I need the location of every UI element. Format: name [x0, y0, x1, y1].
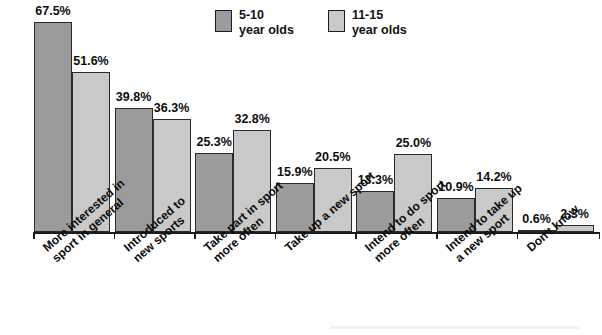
bar-value-label: 67.5%	[35, 4, 70, 18]
plot-area: 67.5%51.6%39.8%36.3%25.3%32.8%15.9%20.5%…	[0, 0, 602, 335]
axis-tick	[114, 232, 116, 239]
bar-value-label: 51.6%	[73, 54, 108, 68]
bar-value-label: 25.3%	[196, 135, 231, 149]
bar-value-label: 15.9%	[277, 165, 312, 179]
axis-tick	[599, 232, 601, 239]
axis-tick	[33, 232, 35, 239]
axis-tick	[436, 232, 438, 239]
axis-tick	[194, 232, 196, 239]
bar	[34, 22, 72, 232]
bar-value-label: 14.2%	[476, 170, 511, 184]
axis-tick	[275, 232, 277, 239]
bar-value-label: 32.8%	[234, 112, 269, 126]
scan-artifact	[330, 326, 580, 329]
bar	[115, 108, 153, 232]
axis-tick	[355, 232, 357, 239]
bar-value-label: 20.5%	[315, 150, 350, 164]
bar-chart: 5-10 year olds 11-15 year olds 67.5%51.6…	[0, 0, 602, 335]
bar-value-label: 36.3%	[154, 101, 189, 115]
bar-value-label: 25.0%	[396, 136, 431, 150]
axis-tick	[517, 232, 519, 239]
bar-value-label: 39.8%	[116, 90, 151, 104]
